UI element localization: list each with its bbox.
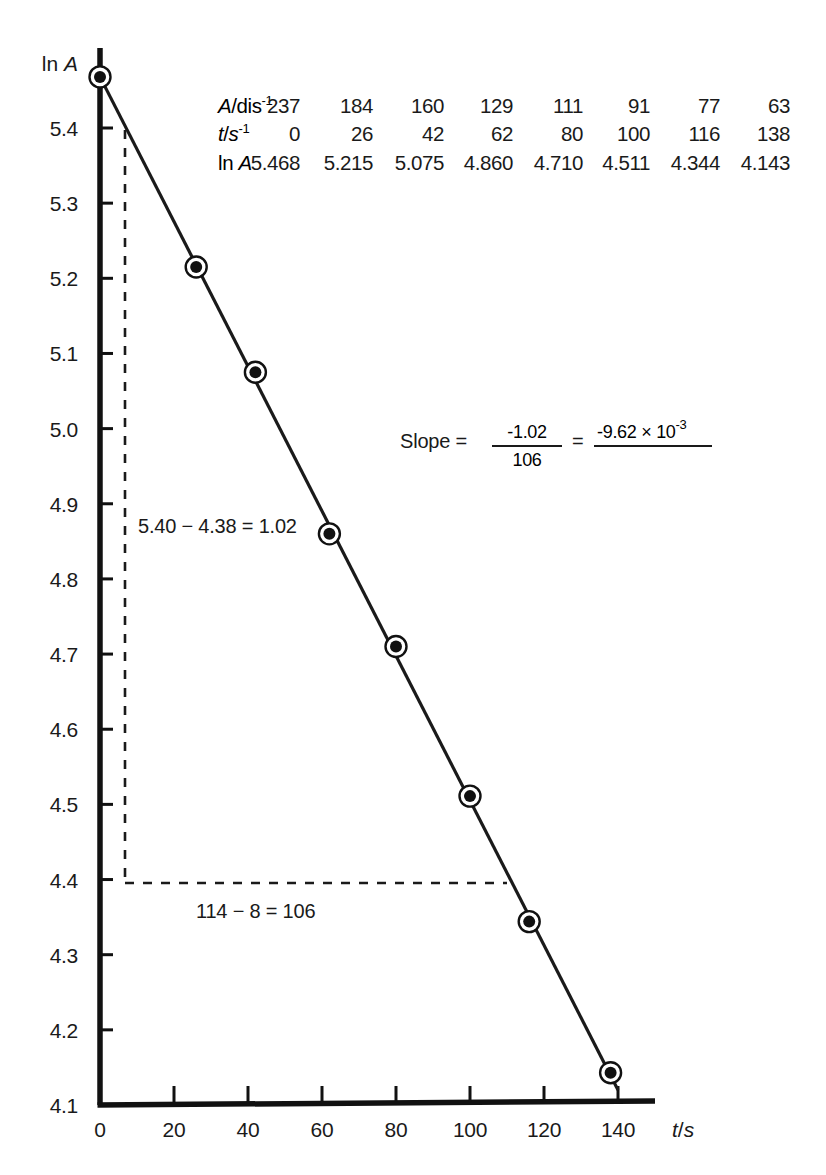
y-tick-label: 5.1 (50, 342, 78, 365)
slope-denominator: 106 (512, 450, 541, 470)
figure-page: 4.14.24.34.44.54.64.74.84.95.05.15.25.35… (0, 0, 826, 1175)
data-table-cell: 100 (617, 122, 650, 145)
data-table-cell: 5.468 (251, 151, 300, 174)
data-table-cell: 63 (768, 94, 790, 117)
data-table-cell: 62 (491, 122, 513, 145)
annotations-group: 5.40 − 4.38 = 1.02114 − 8 = 106Slope =-1… (138, 417, 712, 922)
data-table-cell: 116 (689, 122, 720, 145)
y-tick-label: 5.3 (50, 192, 78, 215)
data-table-cell: 4.710 (534, 151, 583, 174)
data-point-dot (323, 528, 335, 540)
delta-y-annotation: 5.40 − 4.38 = 1.02 (138, 515, 297, 537)
y-axis-title: ln A (42, 52, 78, 75)
data-table-cell: 4.860 (464, 151, 513, 174)
data-table-cell: 4.511 (602, 151, 650, 174)
y-tick-label: 4.7 (50, 643, 78, 666)
data-point-dot (390, 641, 402, 653)
data-point-dot (249, 366, 261, 378)
data-point-dot (190, 261, 202, 273)
data-table-cell: 4.143 (741, 151, 790, 174)
best-fit-line (100, 77, 618, 1090)
slope-result: -9.62 × 10-3 (597, 417, 687, 442)
data-table-cell: 26 (351, 122, 373, 145)
construction-lines-group (125, 130, 507, 883)
data-table-cell: 237 (267, 94, 300, 117)
slope-equals-sign: = (572, 430, 583, 452)
x-tick-label: 120 (527, 1118, 561, 1141)
x-tick-label: 140 (601, 1118, 635, 1141)
x-tick-label: 100 (453, 1118, 487, 1141)
data-point (460, 786, 481, 807)
data-point (90, 66, 111, 87)
x-tick-label: 80 (385, 1118, 408, 1141)
data-table-cell: 80 (561, 122, 583, 145)
data-point (186, 257, 207, 278)
slope-numerator: -1.02 (507, 422, 547, 442)
y-tick-label: 4.9 (50, 493, 78, 516)
data-point (600, 1062, 621, 1083)
data-table-row-label: t/s-1 (218, 121, 249, 145)
y-tick-label: 4.6 (50, 718, 78, 741)
data-table-cell: 42 (422, 122, 444, 145)
y-tick-label: 4.2 (50, 1019, 78, 1042)
y-tick-label: 5.4 (50, 117, 79, 140)
slope-label: Slope = (400, 430, 467, 452)
x-tick-group: 020406080100120140 (94, 1086, 635, 1141)
data-table-cell: 5.215 (324, 151, 373, 174)
y-tick-label: 4.8 (50, 568, 78, 591)
data-point (386, 636, 407, 657)
data-table-cell: 138 (757, 122, 790, 145)
data-table-cell: 111 (553, 94, 583, 117)
data-table-row-label: A/dis-1 (216, 93, 273, 117)
x-axis-title: t/s (672, 1118, 695, 1141)
fit-line-group (100, 77, 618, 1090)
y-tick-label: 4.4 (50, 869, 79, 892)
data-table-cell: 77 (698, 94, 720, 117)
data-point-dot (523, 916, 535, 928)
y-tick-label: 4.5 (50, 793, 78, 816)
data-table-cell: 184 (340, 94, 373, 117)
y-tick-group: 4.14.24.34.44.54.64.74.84.95.05.15.25.35… (50, 117, 113, 1117)
x-axis-line (98, 1101, 656, 1105)
data-table-cell: 4.344 (671, 151, 720, 174)
ln-a-vs-time-plot: 4.14.24.34.44.54.64.74.84.95.05.15.25.35… (0, 0, 826, 1175)
data-point (319, 523, 340, 544)
data-table-group: A/dis-1237184160129111917763t/s-10264262… (216, 93, 790, 174)
data-point-dot (464, 790, 476, 802)
data-table-cell: 129 (480, 94, 513, 117)
data-point (245, 362, 266, 383)
x-tick-label: 60 (311, 1118, 334, 1141)
y-tick-label: 5.2 (50, 267, 78, 290)
y-tick-label: 5.0 (50, 418, 78, 441)
data-point-dot (94, 71, 106, 83)
y-tick-label: 4.1 (50, 1094, 78, 1117)
data-table-cell: 160 (411, 94, 444, 117)
data-table-row-label: ln A (218, 151, 252, 174)
data-table-cell: 5.075 (395, 151, 444, 174)
axis-titles-group: ln At/s (42, 52, 695, 1141)
x-tick-label: 20 (163, 1118, 186, 1141)
data-point-dot (605, 1067, 617, 1079)
data-table-cell: 91 (628, 94, 650, 117)
x-tick-label: 0 (94, 1118, 105, 1141)
y-tick-label: 4.3 (50, 944, 78, 967)
axes-group (98, 48, 656, 1105)
delta-x-annotation: 114 − 8 = 106 (196, 900, 315, 922)
data-table-cell: 0 (289, 122, 300, 145)
x-tick-label: 40 (237, 1118, 260, 1141)
data-point (519, 911, 540, 932)
